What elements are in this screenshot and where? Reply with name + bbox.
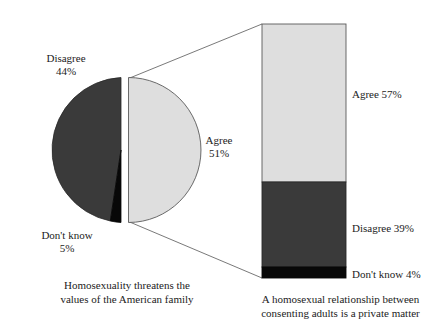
pie-label-agree: Agree 51% [189, 134, 249, 160]
figure-container: Disagree 44% Don't know 5% Agree 51% Agr… [0, 0, 443, 330]
pie-chart [52, 78, 201, 223]
pie-chart-caption: Homosexuality threatens the values of th… [42, 278, 212, 306]
bar-label-agree: Agree 57% [352, 88, 440, 101]
bar-chart-caption: A homosexual relationship between consen… [238, 292, 443, 320]
connector-line-bottom [129, 222, 263, 279]
pie-label-dontknow: Don't know 5% [12, 229, 122, 255]
bar-label-disagree: Disagree 39% [352, 222, 440, 235]
connector-line-top [129, 24, 263, 79]
pie-slice-disagree[interactable] [52, 78, 121, 222]
bar-segment-dontknow[interactable] [262, 267, 346, 278]
pie-label-disagree: Disagree 44% [18, 52, 114, 78]
stacked-bar-chart [262, 24, 346, 278]
bar-segment-disagree[interactable] [262, 182, 346, 267]
bar-segment-agree[interactable] [262, 24, 346, 182]
bar-label-dontknow: Don't know 4% [352, 268, 443, 281]
